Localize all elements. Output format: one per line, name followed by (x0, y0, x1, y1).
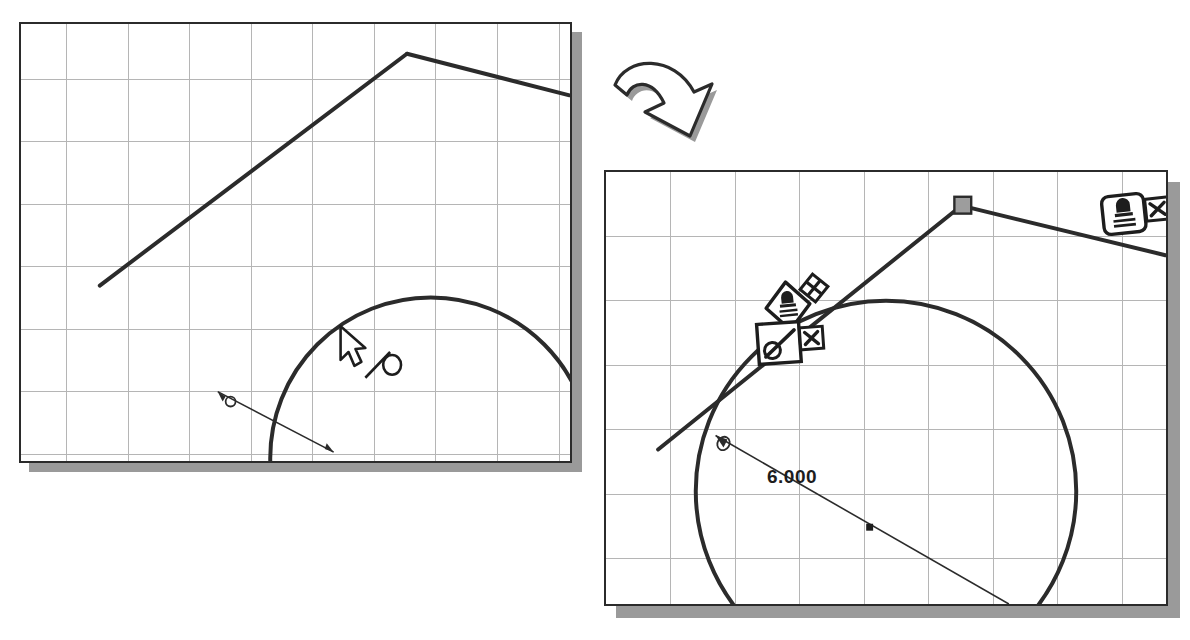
sketch-viewport-after[interactable] (604, 170, 1168, 606)
diameter-dimension-line (716, 436, 1009, 604)
after-sketch-geometry (606, 172, 1166, 604)
curved-down-right-arrow-icon (602, 40, 724, 152)
before-panel-inner: 6.000 (21, 24, 570, 461)
sketch-viewport-before[interactable]: 6.000 (19, 22, 572, 463)
dimension-midpoint-marker (866, 524, 873, 531)
after-panel-inner (606, 172, 1166, 604)
tangent-relation-glyph (365, 352, 401, 378)
before-sketch-geometry (21, 24, 570, 461)
tangent-relation-badge[interactable] (754, 318, 828, 370)
polyline-segment-2 (407, 54, 570, 96)
delete-x-marker[interactable] (1145, 197, 1166, 221)
circle (696, 301, 1076, 604)
after-dimension-value: 6.000 (767, 466, 817, 488)
circle-arc (270, 297, 570, 461)
arrow-cursor (341, 326, 366, 366)
polyline-segment-1 (100, 54, 407, 286)
vertex-handle (954, 197, 971, 214)
delete-x-marker[interactable] (799, 326, 823, 350)
dimension-arrow-end (325, 443, 334, 452)
fix-relation-badge-top-right[interactable] (1098, 188, 1166, 244)
